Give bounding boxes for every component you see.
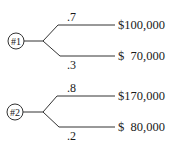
tree-1-probability-lower: .3 — [67, 58, 76, 72]
tree-1-probability-upper: .7 — [67, 10, 76, 24]
tree-1-branch-lower — [43, 41, 115, 56]
tree-1-payoff-lower: $ 70,000 — [118, 49, 165, 63]
tree-2-payoff-lower: $ 80,000 — [118, 120, 165, 134]
tree-1-branch-upper — [24, 25, 115, 41]
tree-1: #1 .7 .3 $100,000 $ 70,000 — [8, 10, 165, 72]
tree-2-probability-upper: .8 — [67, 81, 76, 95]
tree-2-branch-upper — [23, 96, 115, 112]
tree-2-probability-lower: .2 — [67, 129, 76, 143]
tree-2-branch-lower — [43, 112, 115, 127]
tree-2: #2 .8 .2 $170,000 $ 80,000 — [7, 81, 165, 143]
tree-2-payoff-upper: $170,000 — [118, 89, 165, 103]
chance-node-1-label: #1 — [11, 36, 21, 47]
tree-1-payoff-upper: $100,000 — [118, 18, 165, 32]
chance-node-2-label: #2 — [10, 107, 20, 118]
decision-tree-diagram: #1 .7 .3 $100,000 $ 70,000 #2 .8 .2 $170… — [0, 0, 172, 144]
